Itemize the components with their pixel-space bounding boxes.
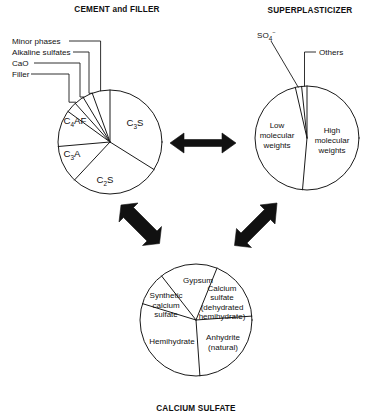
superplasticizer-callout-so4: SO4− [257, 29, 276, 41]
calcium-sulfate-slice-label-anhydrite: Anhydrite(natural) [206, 333, 240, 352]
cement-leader-minor-phases [69, 41, 101, 91]
superplasticizer-chart-title: SUPERPLASTICIZER [268, 6, 353, 15]
cement-leader-alkaline-sulfates [73, 52, 93, 93]
superplasticizer-leader-others [305, 52, 317, 87]
cement-callout-cao: CaO [12, 59, 29, 68]
cement-callout-minor-phases: Minor phases [12, 37, 61, 46]
cement-callout-alkaline-sulfates: Alkaline sulfates [12, 48, 71, 57]
connector-superplasticizer-calcium-sulfate [235, 203, 278, 248]
cement-leader-filler [31, 74, 76, 102]
cement-callout-filler: Filler [12, 70, 30, 79]
double-headed-arrow-diagonal-left [119, 203, 162, 246]
connector-cement-calcium-sulfate [119, 203, 162, 246]
connector-cement-superplasticizer [170, 133, 236, 153]
cement-chart-title: CEMENT and FILLER [74, 5, 159, 14]
cement-slice-label-c4af: C4AF [64, 115, 87, 128]
calcium-sulfate-slice-label-synthetic: Syntheticcalciumsulfate [150, 291, 183, 319]
superplasticizer-chart-group: SUPERPLASTICIZER Highmolecularweights Lo… [255, 6, 359, 190]
double-headed-arrow-horizontal [170, 133, 236, 153]
calcium-sulfate-slice-label-hemihydrate: Hemihydrate [149, 337, 195, 346]
calcium-sulfate-chart-group: Gypsum Calciumsulfate(dehydratedhemihydr… [140, 264, 252, 413]
cement-leader-cao [34, 63, 84, 97]
constituents-diagram: CEMENT and FILLER C3S C2S C3A [0, 0, 388, 419]
superplasticizer-callout-others: Others [319, 48, 343, 57]
diagram-canvas: CEMENT and FILLER C3S C2S C3A [0, 0, 388, 419]
superplasticizer-leader-so4 [271, 41, 298, 88]
cement-chart-group: CEMENT and FILLER C3S C2S C3A [12, 5, 162, 194]
calcium-sulfate-chart-title: CALCIUM SULFATE [156, 404, 236, 413]
double-headed-arrow-diagonal-right [235, 203, 278, 248]
